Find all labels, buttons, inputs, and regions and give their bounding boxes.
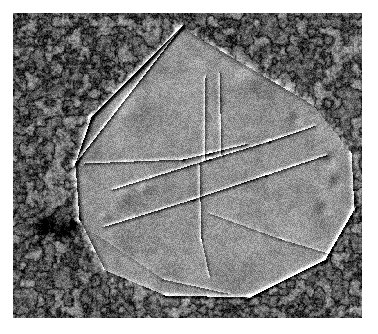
micrograph-image — [13, 13, 362, 318]
micrograph-figure — [0, 0, 378, 334]
micrograph-canvas — [13, 13, 362, 318]
